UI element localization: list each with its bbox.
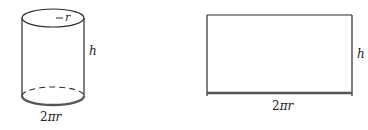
cylinder [22,9,84,105]
rect-width-label-sym: πr [279,99,295,113]
cylinder-bottom-front-edge [22,96,84,105]
rect-width-label-num: 2 [272,99,280,113]
cylinder-circumference-label-sym: πr [47,110,63,124]
cylinder-circumference-label-num: 2 [40,110,48,124]
cylinder-bottom-back-dashed [22,87,84,96]
diagram-canvas: r h 2πr h 2πr [0,0,368,130]
rect-height-label: h [357,47,365,61]
unrolled-rectangle [207,15,352,96]
rect-width-label: 2πr [272,99,295,113]
cylinder-circumference-label: 2πr [40,110,63,124]
cylinder-radius-label: r [65,11,71,24]
cylinder-height-label: h [89,44,97,58]
cylinder-top-ellipse [22,9,84,27]
